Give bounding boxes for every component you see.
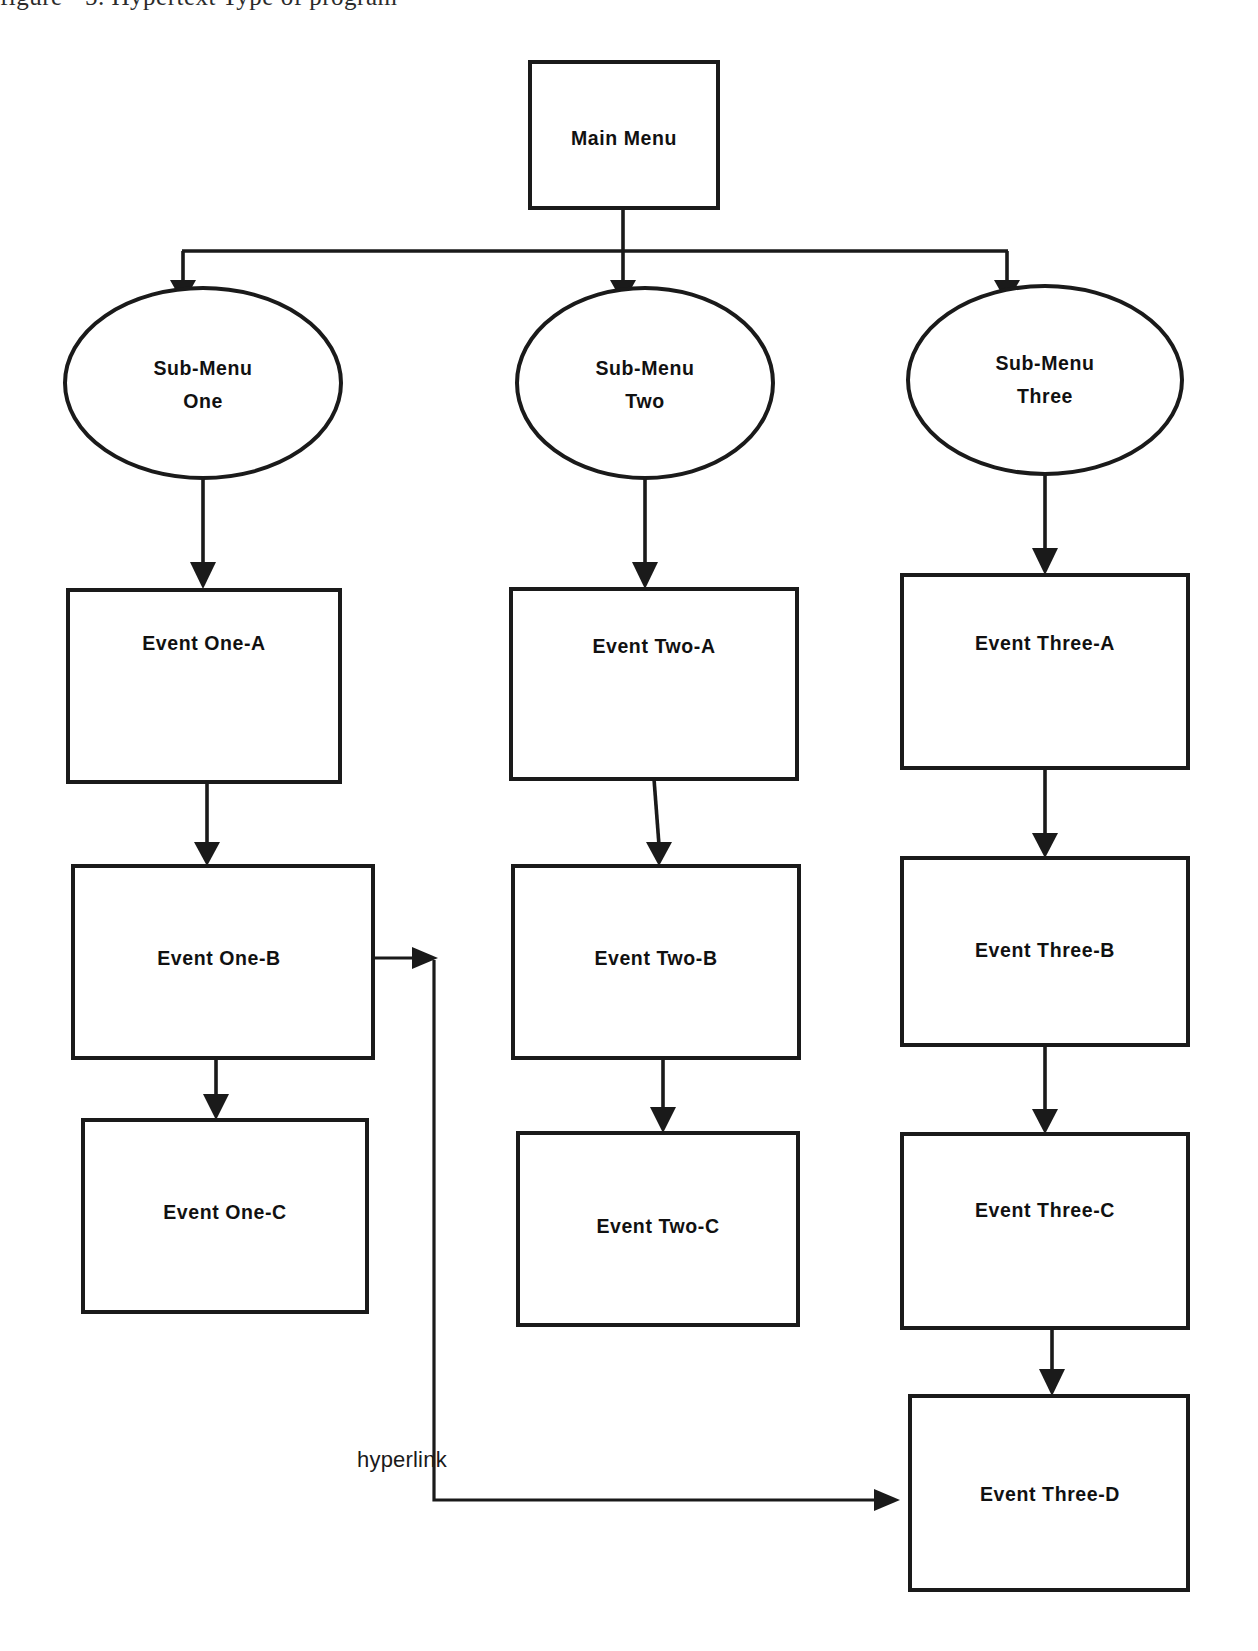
edge-event-two-b-to-event-two-c (650, 1058, 676, 1133)
node-sub-menu-three[interactable]: Sub-Menu Three (908, 286, 1182, 474)
node-sub-menu-one[interactable]: Sub-Menu One (65, 288, 341, 478)
arrowhead-hyperlink-target (874, 1489, 900, 1511)
node-sub-menu-one-label-line1: Sub-Menu (153, 357, 252, 379)
node-main-menu-label: Main Menu (571, 127, 677, 149)
edge-sub-menu-one-to-event-one-a (190, 473, 216, 589)
arrowhead-event-two-c (650, 1107, 676, 1133)
edge-event-one-a-to-event-one-b (194, 782, 220, 866)
node-sub-menu-three-label-line2: Three (1017, 385, 1073, 407)
flowchart-canvas: figure - 5. Hypertext Type of program (0, 0, 1258, 1651)
node-event-two-a-label: Event Two-A (592, 635, 715, 657)
edge-sub-menu-three-to-event-three-a (1032, 470, 1058, 575)
edge-event-three-a-to-event-three-b (1032, 768, 1058, 858)
node-sub-menu-three-label-line1: Sub-Menu (995, 352, 1094, 374)
node-event-two-c-label: Event Two-C (596, 1215, 719, 1237)
node-event-three-c-label: Event Three-C (975, 1199, 1115, 1221)
arrowhead-event-one-c (203, 1094, 229, 1120)
node-event-three-a[interactable]: Event Three-A (902, 575, 1188, 768)
node-event-three-b[interactable]: Event Three-B (902, 858, 1188, 1045)
edge-sub-menu-two-to-event-two-a (632, 473, 658, 589)
node-event-one-a-label: Event One-A (142, 632, 266, 654)
node-sub-menu-two-label-line2: Two (625, 390, 664, 412)
arrowhead-event-three-d (1039, 1369, 1065, 1396)
arrowhead-event-three-b (1032, 833, 1058, 858)
node-event-one-a[interactable]: Event One-A (68, 590, 340, 782)
arrowhead-event-three-c (1032, 1109, 1058, 1134)
node-event-two-a[interactable]: Event Two-A (511, 589, 797, 779)
edge-event-two-a-to-event-two-b (646, 779, 672, 866)
arrowhead-event-two-a (632, 562, 658, 589)
node-event-two-b-label: Event Two-B (594, 947, 717, 969)
node-main-menu[interactable]: Main Menu (530, 62, 718, 208)
node-event-one-b[interactable]: Event One-B (73, 866, 373, 1058)
arrowhead-event-three-a (1032, 548, 1058, 575)
edge-event-three-b-to-event-three-c (1032, 1045, 1058, 1134)
edge-event-one-b-to-event-one-c (203, 1058, 229, 1120)
arrowhead-event-one-b (194, 842, 220, 866)
node-event-three-a-label: Event Three-A (975, 632, 1115, 654)
node-event-one-c-label: Event One-C (163, 1201, 287, 1223)
arrowhead-event-two-b (646, 842, 672, 866)
node-event-three-d-label: Event Three-D (980, 1483, 1120, 1505)
edge-event-three-c-to-event-three-d (1039, 1328, 1065, 1396)
node-event-three-b-label: Event Three-B (975, 939, 1115, 961)
node-sub-menu-one-label-line2: One (183, 390, 223, 412)
node-sub-menu-two-label-line1: Sub-Menu (595, 357, 694, 379)
node-sub-menu-two[interactable]: Sub-Menu Two (517, 288, 773, 478)
node-event-three-d[interactable]: Event Three-D (910, 1396, 1188, 1590)
node-event-one-b-label: Event One-B (157, 947, 281, 969)
node-event-two-b[interactable]: Event Two-B (513, 866, 799, 1058)
flowchart-svg: Main Menu Sub-Menu One Sub-Menu Two Sub-… (0, 0, 1258, 1651)
node-event-three-c[interactable]: Event Three-C (902, 1134, 1188, 1328)
node-event-two-c[interactable]: Event Two-C (518, 1133, 798, 1325)
edge-hyperlink-label: hyperlink (357, 1447, 448, 1472)
arrowhead-event-one-a (190, 562, 216, 589)
node-event-one-c[interactable]: Event One-C (83, 1120, 367, 1312)
